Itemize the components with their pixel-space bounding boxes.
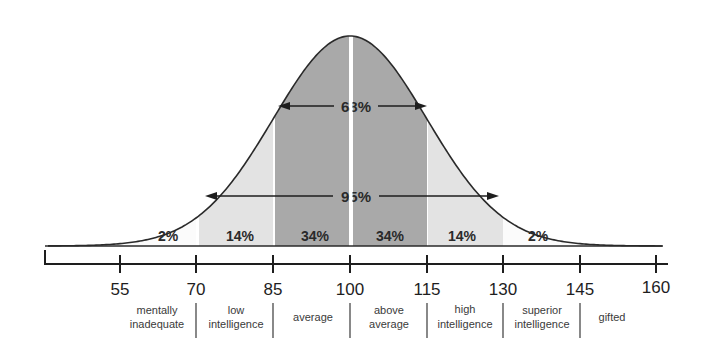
category-high-line2: intelligence: [437, 318, 492, 330]
tick-label-100: 100: [336, 280, 364, 299]
arrow-left-icon: [205, 192, 217, 200]
band-14-right: [428, 0, 503, 246]
x-axis: [44, 250, 668, 273]
pct-14-right: 14%: [448, 228, 477, 244]
category-low-line2: intelligence: [208, 318, 263, 330]
band-outer-left: [40, 0, 196, 246]
band-34-left: [275, 0, 349, 246]
band-outer-right: [503, 0, 663, 246]
category-mentally-line2: inadequate: [130, 318, 184, 330]
band-14-left: [199, 0, 273, 246]
category-above-line1: above: [374, 304, 404, 316]
tick-label-130: 130: [489, 280, 517, 299]
pct-2-left: 2%: [158, 228, 179, 244]
range-95-label: 95%: [341, 188, 371, 205]
pct-34-right: 34%: [376, 228, 405, 244]
category-gifted: gifted: [599, 311, 626, 323]
category-superior-line2: intelligence: [514, 318, 569, 330]
tick-label-55: 55: [111, 280, 130, 299]
tick-label-70: 70: [187, 280, 206, 299]
category-average: average: [293, 311, 333, 323]
tick-label-160: 160: [642, 278, 670, 297]
arrow-right-icon: [487, 192, 499, 200]
pct-34-left: 34%: [301, 228, 330, 244]
iq-bell-curve-chart: 68% 95% 2% 14% 34% 34% 14% 2% 55 70 85 1…: [0, 0, 710, 354]
band-34-right: [353, 0, 427, 246]
pct-2-right: 2%: [528, 228, 549, 244]
category-above-line2: average: [369, 318, 409, 330]
category-low-line1: low: [228, 304, 245, 316]
tick-label-145: 145: [566, 280, 594, 299]
range-68-label: 68%: [341, 98, 371, 115]
tick-label-85: 85: [264, 280, 283, 299]
category-high-line1: high: [455, 303, 476, 315]
tick-label-115: 115: [413, 280, 440, 299]
category-superior-line1: superior: [522, 304, 562, 316]
pct-14-left: 14%: [226, 228, 255, 244]
category-mentally-line1: mentally: [137, 304, 178, 316]
